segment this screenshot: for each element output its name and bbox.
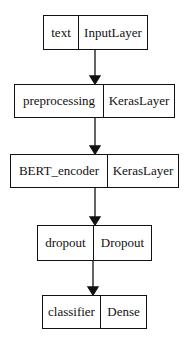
edge-bert-to-dropout	[90, 188, 100, 225]
node-name: BERT_encoder	[11, 155, 108, 187]
arrowhead-icon	[90, 217, 100, 225]
edge-text-to-preprocessing	[90, 50, 100, 84]
node-layer-type: InputLayer	[79, 16, 147, 49]
node-bert-encoder: BERT_encoder KerasLayer	[10, 154, 179, 188]
arrowhead-icon	[90, 146, 100, 154]
node-preprocessing: preprocessing KerasLayer	[14, 84, 175, 118]
node-layer-type: KerasLayer	[104, 85, 174, 117]
node-name: dropout	[38, 226, 94, 260]
node-classifier: classifier Dense	[42, 295, 147, 329]
node-name: classifier	[43, 296, 101, 328]
node-layer-type: KerasLayer	[108, 155, 178, 187]
edge-dropout-to-classifier	[88, 261, 98, 295]
node-name: preprocessing	[15, 85, 104, 117]
node-layer-type: Dropout	[94, 226, 151, 260]
node-layer-type: Dense	[101, 296, 146, 328]
arrowhead-icon	[90, 76, 100, 84]
node-name: text	[44, 16, 79, 49]
edge-preprocessing-to-bert	[90, 118, 100, 154]
arrowhead-icon	[88, 287, 98, 295]
node-text: text InputLayer	[43, 15, 148, 50]
node-dropout: dropout Dropout	[37, 225, 152, 261]
